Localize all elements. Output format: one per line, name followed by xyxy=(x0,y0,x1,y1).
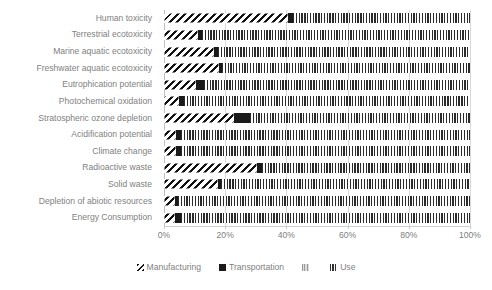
legend-item[interactable]: Use xyxy=(330,262,355,272)
legend-swatch-icon xyxy=(330,264,337,271)
x-tick xyxy=(286,226,287,229)
gridline-100 xyxy=(470,10,471,226)
legend-label: Manufacturing xyxy=(147,262,201,272)
legend-item[interactable] xyxy=(302,264,312,271)
bar-segment-manufacturing xyxy=(164,47,214,57)
category-label: Freshwater aquatic ecotoxicity xyxy=(0,64,152,73)
x-tick-label: 20% xyxy=(205,230,245,240)
category-label: Photochemical oxidation xyxy=(0,97,152,106)
bar-segment-manufacturing xyxy=(164,113,234,123)
legend-swatch-icon xyxy=(302,264,309,271)
bar-row xyxy=(164,63,470,73)
bar-row xyxy=(164,96,470,106)
category-label: Solid waste xyxy=(0,180,152,189)
bar-segment-manufacturing xyxy=(164,13,288,23)
bar-segment-use xyxy=(250,113,470,123)
bar-row xyxy=(164,146,470,156)
x-axis-line xyxy=(164,226,471,227)
bar-row xyxy=(164,113,470,123)
bar-segment-manufacturing xyxy=(164,196,175,206)
bar-segment-use xyxy=(218,47,470,57)
bar-row xyxy=(164,47,470,57)
bar-row xyxy=(164,179,470,189)
bar-row xyxy=(164,80,470,90)
bar-segment-manufacturing xyxy=(164,80,196,90)
bar-segment-use xyxy=(178,196,470,206)
category-label: Marine aquatic ecotoxicity xyxy=(0,47,152,56)
legend-label: Transportation xyxy=(229,262,284,272)
bar-segment-manufacturing xyxy=(164,63,219,73)
legend-swatch-icon xyxy=(137,264,144,271)
bar-row xyxy=(164,196,470,206)
bar-segment-manufacturing xyxy=(164,163,257,173)
bar-row xyxy=(164,163,470,173)
bar-segment-use xyxy=(221,179,470,189)
category-label: Human toxicity xyxy=(0,14,152,23)
bar-segment-use xyxy=(181,130,470,140)
bar-segment-use xyxy=(202,30,470,40)
plot-area xyxy=(164,10,470,226)
bar-segment-use xyxy=(293,13,470,23)
category-label: Radioactive waste xyxy=(0,163,152,172)
bar-segment-use xyxy=(222,63,470,73)
category-label: Stratospheric ozone depletion xyxy=(0,114,152,123)
legend-label: Use xyxy=(340,262,355,272)
stacked-bar-chart: Human toxicityTerrestrial ecotoxicityMar… xyxy=(0,0,492,290)
bar-segment-use xyxy=(184,96,470,106)
category-label: Energy Consumption xyxy=(0,213,152,222)
bar-row xyxy=(164,30,470,40)
x-tick-label: 60% xyxy=(328,230,368,240)
x-tick xyxy=(225,226,226,229)
bar-row xyxy=(164,13,470,23)
legend-item[interactable]: Transportation xyxy=(219,262,284,272)
bar-segment-use xyxy=(181,213,470,223)
bar-segment-use xyxy=(204,80,470,90)
bar-segment-manufacturing xyxy=(164,30,198,40)
chart-legend: ManufacturingTransportationUse xyxy=(0,262,492,272)
bar-segment-manufacturing xyxy=(164,179,218,189)
bar-row xyxy=(164,213,470,223)
x-tick xyxy=(164,226,165,229)
bar-segment-manufacturing xyxy=(164,213,175,223)
bar-segment-use xyxy=(181,146,470,156)
x-tick-label: 80% xyxy=(389,230,429,240)
bar-segment-manufacturing xyxy=(164,96,179,106)
bar-segment-transportation xyxy=(196,80,204,90)
category-label: Eutrophication potential xyxy=(0,80,152,89)
bar-segment-manufacturing xyxy=(164,130,176,140)
x-tick-label: 100% xyxy=(450,230,490,240)
x-tick xyxy=(409,226,410,229)
bar-row xyxy=(164,130,470,140)
legend-swatch-icon xyxy=(219,264,226,271)
category-label: Climate change xyxy=(0,147,152,156)
bar-segment-manufacturing xyxy=(164,146,176,156)
x-tick xyxy=(470,226,471,229)
x-tick-label: 40% xyxy=(266,230,306,240)
category-label: Depletion of abiotic resources xyxy=(0,197,152,206)
x-tick-label: 0% xyxy=(144,230,184,240)
category-label: Acidification potential xyxy=(0,130,152,139)
legend-item[interactable]: Manufacturing xyxy=(137,262,201,272)
category-axis-labels: Human toxicityTerrestrial ecotoxicityMar… xyxy=(0,10,158,226)
x-tick xyxy=(348,226,349,229)
category-label: Terrestrial ecotoxicity xyxy=(0,30,152,39)
bar-segment-use xyxy=(262,163,470,173)
bar-segment-transportation xyxy=(234,113,249,123)
